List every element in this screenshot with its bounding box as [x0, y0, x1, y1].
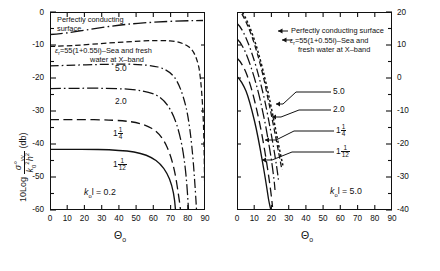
- right-curve-label-2: 2.0: [333, 105, 345, 114]
- right-ytick-2: 0: [397, 74, 421, 82]
- right-ytick-0: 20: [397, 9, 421, 17]
- right-ytick-5: -30: [397, 173, 421, 181]
- dielectric-text-2: fresh water at X–band: [290, 46, 370, 55]
- right-curve-label-1-1-12: 1112: [336, 145, 350, 159]
- right-ytick-1: 10: [397, 41, 421, 49]
- right-annot-perfect-conductor: Perfectly conducting surface: [291, 27, 384, 36]
- right-ytick-6: -40: [397, 206, 421, 214]
- dielectric-text: =55(1+0.55i)–Sea and: [295, 36, 369, 45]
- right-annot-dielectric: εr=55(1+0.55i)–Sea and fresh water at X–…: [290, 37, 370, 54]
- right-ytick-3: -10: [397, 107, 421, 115]
- right-curve-label-5: 5.0: [333, 87, 345, 96]
- right-axis-ticks: [0, 0, 440, 271]
- right-xtick-9: 90: [382, 215, 402, 223]
- figure-root: 10Log σ°vv k02h2 (db) 0 -10 -20 -30 -40 …: [0, 0, 440, 271]
- right-curve-label-1-1-4: 114: [336, 124, 346, 138]
- right-ytick-4: -20: [397, 140, 421, 148]
- right-x-axis-title: Θo: [301, 229, 313, 241]
- right-case-label: kol = 5.0: [330, 186, 362, 196]
